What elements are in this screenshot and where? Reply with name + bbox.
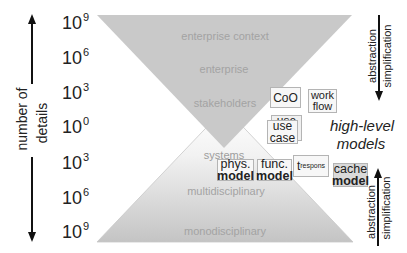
bottom-abstraction-label: abstraction bbox=[365, 185, 377, 239]
tick-bottom-1e3: 103 bbox=[62, 154, 89, 172]
box-phys-model-line2: model bbox=[217, 170, 254, 182]
label-monodisciplinary: monodisciplinary bbox=[184, 225, 266, 237]
top-simplification-label: simplification bbox=[381, 25, 393, 88]
tick-top-1e3: 103 bbox=[62, 84, 89, 102]
top-abstraction-label: abstraction bbox=[366, 29, 378, 83]
box-workflow: work flow bbox=[308, 89, 337, 113]
box-t-respons-sub: respons bbox=[300, 160, 325, 172]
box-coo-label: CoO bbox=[273, 92, 298, 104]
box-func-model-line2: model bbox=[256, 170, 293, 182]
box-phys-model: phys. model bbox=[217, 159, 254, 181]
tick-1e0: 100 bbox=[62, 118, 89, 136]
box-cache-model: cache model bbox=[333, 163, 368, 187]
box-coo: CoO bbox=[270, 87, 301, 108]
box-use-case: use case bbox=[267, 120, 298, 144]
label-enterprise: enterprise bbox=[200, 63, 249, 75]
tick-bottom-1e9: 109 bbox=[62, 223, 89, 241]
axis-title-line1: number of bbox=[14, 87, 30, 150]
tick-bottom-1e6: 106 bbox=[62, 189, 89, 207]
tick-top-1e9: 109 bbox=[62, 14, 89, 32]
box-use-case-line2: case bbox=[270, 132, 295, 144]
box-func-model: func. model bbox=[257, 159, 292, 181]
bottom-simplification-label: simplification bbox=[380, 177, 392, 240]
label-multidisciplinary: multidisciplinary bbox=[187, 185, 265, 197]
box-cache-model-line2: model bbox=[332, 175, 369, 187]
axis-title-line2: details bbox=[34, 103, 50, 143]
label-enterprise-context: enterprise context bbox=[181, 30, 268, 42]
tick-top-1e6: 106 bbox=[62, 49, 89, 67]
up-arrow-icon bbox=[28, 14, 36, 84]
high-level-models-line2: models bbox=[337, 135, 385, 152]
box-t-respons: trespons bbox=[293, 155, 329, 177]
high-level-models-line1: high-level bbox=[330, 117, 394, 134]
label-stakeholders: stakeholders bbox=[194, 97, 256, 109]
box-workflow-line2: flow bbox=[313, 101, 333, 112]
down-arrow-icon bbox=[28, 157, 36, 242]
